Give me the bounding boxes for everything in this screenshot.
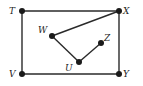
point-T — [19, 8, 25, 14]
label-V: V — [9, 69, 17, 79]
point-Y — [116, 71, 122, 77]
label-X: X — [122, 6, 130, 16]
label-W: W — [38, 25, 48, 35]
point-W — [49, 33, 55, 39]
label-Y: Y — [123, 69, 130, 79]
point-V — [19, 71, 25, 77]
label-T: T — [9, 6, 16, 16]
label-Z: Z — [103, 33, 111, 43]
labels: T X W Z U V Y — [9, 6, 130, 79]
label-U: U — [65, 63, 73, 73]
point-X — [116, 8, 122, 14]
segment-UZ — [79, 43, 101, 62]
geometry-diagram: T X W Z U V Y — [0, 0, 143, 86]
point-U — [76, 59, 82, 65]
segment-WU — [52, 36, 79, 62]
